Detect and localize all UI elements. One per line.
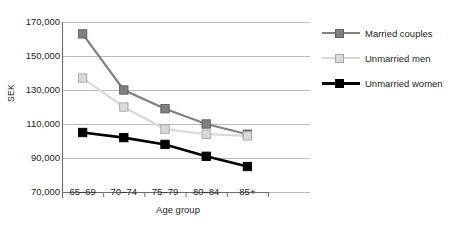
legend-key [322,52,360,64]
legend-item[interactable]: Married couples [322,26,433,40]
y-axis-tick-label: 130,000 [14,85,60,95]
legend-label: Unmarried women [360,78,443,89]
data-point-marker [161,125,169,133]
line-chart: 70,00090,000110,000130,000150,000170,000… [0,0,458,225]
data-point-marker [161,140,169,148]
x-axis-tick-label: 85+ [221,186,273,197]
legend-item[interactable]: Unmarried men [322,51,430,65]
data-point-marker [120,86,128,94]
y-axis-tick-labels: 70,00090,000110,000130,000150,000170,000 [14,0,60,225]
y-axis-title: SEK [6,73,16,113]
data-point-marker [243,132,251,140]
data-point-marker [202,130,210,138]
legend-key [322,27,360,39]
data-point-marker [161,105,169,113]
data-point-marker [202,152,210,160]
data-point-marker [202,120,210,128]
y-axis-tick-label: 170,000 [14,17,60,27]
series-line [83,133,248,167]
legend-marker-swatch [335,29,344,38]
legend-item[interactable]: Unmarried women [322,76,443,90]
data-point-marker [78,74,86,82]
legend-label: Married couples [360,28,433,39]
data-point-marker [78,30,86,38]
legend-marker-swatch [335,54,344,63]
data-point-marker [120,103,128,111]
data-point-marker [78,128,86,136]
legend-marker-swatch [335,79,344,88]
y-axis-tick-label: 70,000 [14,187,60,197]
legend-label: Unmarried men [360,53,430,64]
legend-key [322,77,360,89]
x-axis-title: Age group [118,204,238,215]
data-point-marker [243,162,251,170]
y-axis-tick-label: 90,000 [14,153,60,163]
y-axis-tick-label: 110,000 [14,119,60,129]
data-point-marker [120,133,128,141]
series-line [83,34,248,134]
y-axis-tick-label: 150,000 [14,51,60,61]
